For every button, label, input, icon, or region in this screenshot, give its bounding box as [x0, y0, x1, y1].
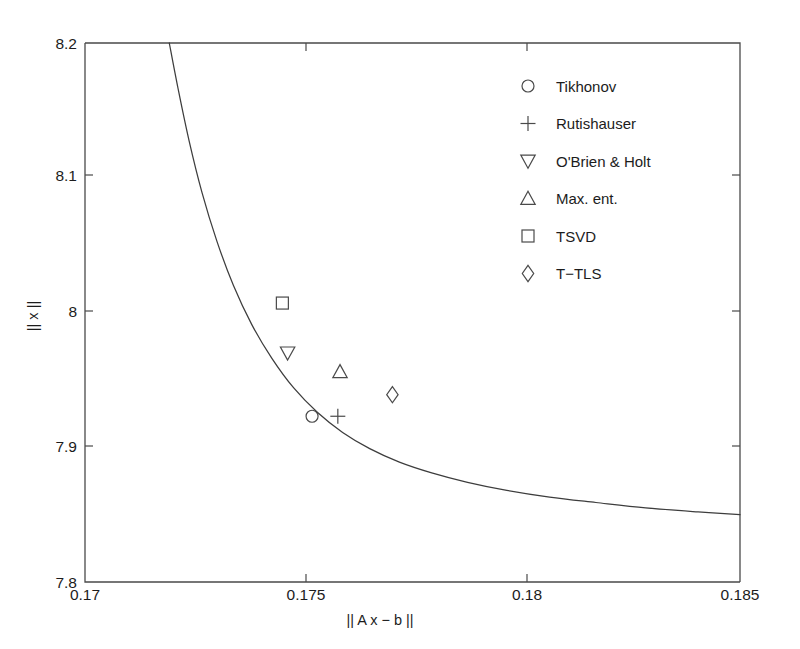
x-tick-label-3: 0.185 — [721, 586, 760, 603]
legend-label: O'Brien & Holt — [556, 153, 651, 170]
y-tick-label-4: 8.2 — [55, 35, 77, 52]
legend-label: TSVD — [556, 228, 596, 245]
plot-background — [0, 0, 800, 649]
x-tick-label-2: 0.18 — [512, 586, 542, 603]
y-tick-label-3: 8.1 — [55, 167, 77, 184]
y-tick-label-2: 8 — [68, 303, 77, 320]
legend-label: T−TLS — [556, 265, 601, 282]
legend-label: Tikhonov — [556, 78, 617, 95]
y-tick-label-1: 7.9 — [55, 438, 77, 455]
legend-label: Max. ent. — [556, 190, 618, 207]
y-tick-label-0: 7.8 — [55, 574, 77, 591]
l-curve-plot: 0.17 0.175 0.18 0.185 7.8 7.9 8 8.1 8.2 … — [0, 0, 800, 649]
x-tick-label-1: 0.175 — [287, 586, 326, 603]
legend-label: Rutishauser — [556, 115, 636, 132]
y-axis-title: || x || — [25, 301, 41, 331]
x-axis-title: || A x − b || — [346, 612, 413, 628]
